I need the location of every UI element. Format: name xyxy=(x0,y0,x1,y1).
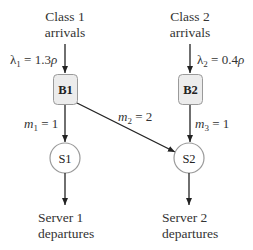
server-1-departures-label: Server 1 departures xyxy=(38,210,94,241)
queueing-network-diagram: Class 1 arrivals Class 2 arrivals λ1 = 1… xyxy=(0,0,253,250)
m2-label: m2 = 2 xyxy=(118,109,152,126)
class-1-subtitle: arrivals xyxy=(45,25,85,40)
class-2-title: Class 2 xyxy=(170,9,209,24)
class-1-arrivals-label: Class 1 arrivals xyxy=(45,9,85,40)
server-1-subtitle: departures xyxy=(38,226,94,241)
buffer-b1-label: B1 xyxy=(58,83,73,97)
lambda-2-label: λ2 = 0.4ρ xyxy=(197,52,244,69)
m3-label: m3 = 1 xyxy=(195,116,229,133)
server-s1: S1 xyxy=(50,143,80,173)
class-2-subtitle: arrivals xyxy=(170,25,210,40)
class-1-title: Class 1 xyxy=(45,9,84,24)
buffer-b1: B1 xyxy=(54,75,78,105)
buffer-b2: B2 xyxy=(179,75,203,105)
server-2-departures-label: Server 2 departures xyxy=(162,210,218,241)
server-1-title: Server 1 xyxy=(38,210,83,225)
m1-label: m1 = 1 xyxy=(24,116,58,133)
lambda-1-label: λ1 = 1.3ρ xyxy=(10,52,57,69)
server-s2-label: S2 xyxy=(182,152,195,166)
class-2-arrivals-label: Class 2 arrivals xyxy=(170,9,210,40)
buffer-b2-label: B2 xyxy=(183,83,198,97)
server-2-title: Server 2 xyxy=(162,210,207,225)
server-s2: S2 xyxy=(174,143,204,173)
server-s1-label: S1 xyxy=(58,152,71,166)
server-2-subtitle: departures xyxy=(162,226,218,241)
